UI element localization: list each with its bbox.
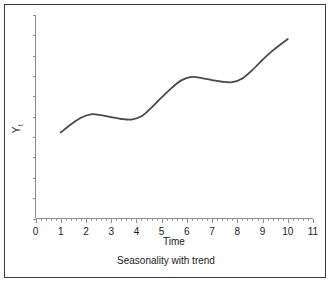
x-tick-label: 7 <box>209 226 215 237</box>
x-tick-label: 11 <box>308 226 319 237</box>
chart-caption: Seasonality with trend <box>117 255 215 266</box>
y-axis-title-subscript: t <box>17 124 24 126</box>
x-tick-label: 8 <box>235 226 241 237</box>
x-axis: 01234567891011 <box>33 219 319 237</box>
chart-figure: 01234567891011 Time Seasonality with tre… <box>0 0 331 283</box>
x-tick-label: 1 <box>58 226 64 237</box>
x-axis-title: Time <box>163 236 185 247</box>
x-axis-tick-labels: 01234567891011 <box>33 226 319 237</box>
x-tick-label: 9 <box>260 226 266 237</box>
x-tick-label: 6 <box>184 226 190 237</box>
x-tick-label: 3 <box>108 226 114 237</box>
x-tick-label: 10 <box>282 226 294 237</box>
chart-plot-area: 01234567891011 Time Seasonality with tre… <box>0 0 331 283</box>
x-tick-label: 2 <box>83 226 89 237</box>
data-series-line <box>61 39 288 132</box>
y-axis-title: Y t <box>11 124 24 133</box>
y-axis <box>33 15 36 220</box>
x-tick-label: 5 <box>159 226 165 237</box>
y-axis-title-text: Y <box>11 126 22 133</box>
x-tick-label: 0 <box>33 226 39 237</box>
x-axis-major-ticks <box>37 219 314 223</box>
x-tick-label: 4 <box>134 226 140 237</box>
